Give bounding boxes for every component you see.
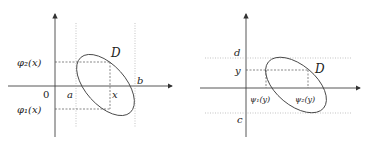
right-diagram: D d y c ψ₁(y) ψ₂(y) [200, 14, 360, 137]
x-label: x [112, 89, 118, 100]
region-label: D [110, 46, 121, 60]
phi1-label: φ₁(x) [17, 104, 42, 115]
d-label: d [234, 47, 240, 58]
b-label: b [137, 75, 143, 86]
diagram-canvas: D 0 a b x φ₂(x) φ₁(x) D d y c ψ₁(y) ψ₂(y… [0, 0, 371, 148]
psi1-label: ψ₁(y) [250, 95, 270, 104]
left-diagram: D 0 a b x φ₂(x) φ₁(x) [8, 14, 172, 137]
region-label: D [314, 62, 325, 76]
psi2-label: ψ₂(y) [295, 95, 315, 104]
origin-label: 0 [43, 89, 49, 100]
c-label: c [237, 114, 243, 125]
region-ellipse [66, 44, 145, 126]
a-label: a [67, 89, 73, 100]
y-label: y [234, 65, 241, 76]
phi2-label: φ₂(x) [17, 57, 42, 68]
